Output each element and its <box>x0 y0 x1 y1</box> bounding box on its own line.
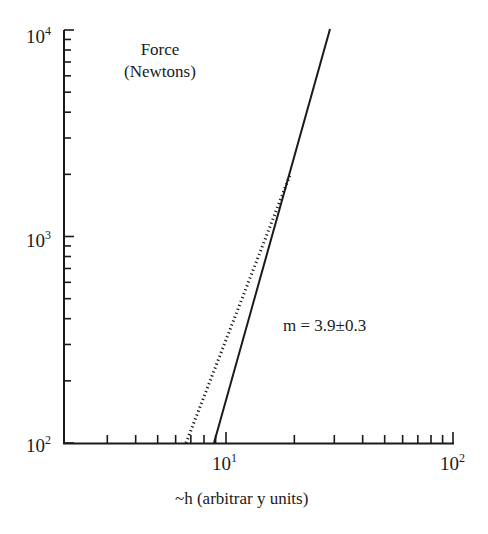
slope-annotation: m = 3.9±0.3 <box>283 316 366 335</box>
y-ticks <box>64 30 74 443</box>
chart: 102 103 104 101 102 Force (Newtons) m = … <box>0 0 488 534</box>
dotted-data-series <box>186 175 290 443</box>
force-label: Force <box>141 40 180 59</box>
x-ticks <box>107 432 453 443</box>
x-tick-label-100: 102 <box>440 451 465 474</box>
y-tick-label-1000: 103 <box>26 228 51 251</box>
x-tick-label-10: 101 <box>212 451 237 474</box>
y-tick-label-10000: 104 <box>26 24 51 47</box>
x-axis-label: ~h (arbitrar y units) <box>175 489 308 508</box>
solid-fit-line <box>214 29 330 443</box>
newtons-label: (Newtons) <box>124 62 196 81</box>
y-tick-label-100: 102 <box>26 433 51 456</box>
